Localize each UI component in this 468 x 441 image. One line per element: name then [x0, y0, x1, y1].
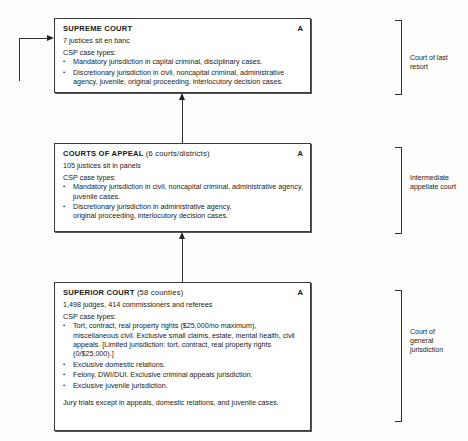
case-type-item: Tort, contract, real property rights ($2… [63, 321, 303, 359]
case-types-label: CSP case types: [63, 173, 303, 182]
connector-bypass-top [19, 38, 47, 39]
case-type-item: Discretionary jurisdiction in administra… [63, 202, 303, 221]
case-types-label: CSP case types: [63, 48, 303, 57]
case-types-list: Mandatory jurisdiction in capital crimin… [63, 57, 303, 86]
court-title-text: SUPERIOR COURT [63, 288, 135, 297]
connector-superior-to-appeal [182, 238, 183, 282]
arrow-up-icon [179, 93, 185, 100]
court-subtitle: (6 courts/districts) [146, 149, 210, 158]
court-title: COURTS OF APPEAL (6 courts/districts) [63, 149, 210, 158]
level-bracket [395, 147, 402, 234]
level-bracket [395, 20, 402, 95]
case-types-list: Mandatory jurisdiction in civil, noncapi… [63, 182, 303, 221]
court-subtitle: (58 counties) [137, 288, 184, 297]
arrow-right-icon [47, 35, 54, 41]
court-title: SUPERIOR COURT (58 counties) [63, 288, 183, 297]
connector-superior-to-supreme-bypass [19, 38, 20, 81]
case-types-list: Tort, contract, real property rights ($2… [63, 321, 303, 390]
courts-of-appeal-box: COURTS OF APPEAL (6 courts/districts) A … [54, 143, 311, 232]
court-staff: 105 justices sit in panels [63, 161, 303, 170]
superior-court-box: SUPERIOR COURT (58 counties) A 1,498 jud… [54, 282, 311, 431]
court-badge: A [298, 149, 303, 158]
case-type-item: Mandatory jurisdiction in civil, noncapi… [63, 182, 303, 201]
case-type-item: Exclusive domestic relations. [63, 360, 303, 369]
court-title-text: COURTS OF APPEAL [63, 149, 143, 158]
case-types-label: CSP case types: [63, 312, 303, 321]
court-staff: 7 justices sit en banc [63, 36, 303, 45]
court-title: SUPREME COURT [63, 24, 132, 33]
court-badge: A [298, 24, 303, 33]
level-label: Intermediate appellate court [410, 173, 460, 191]
arrow-up-icon [179, 232, 185, 239]
level-label: Court of last resort [410, 53, 460, 71]
connector-appeal-to-supreme [182, 99, 183, 143]
level-bracket [395, 290, 402, 422]
case-type-item: Felony, DWI/DUI. Exclusive criminal appe… [63, 370, 303, 379]
supreme-court-box: SUPREME COURT A 7 justices sit en banc C… [54, 18, 311, 93]
level-label: Court of general jurisdiction [410, 327, 460, 354]
court-badge: A [298, 288, 303, 297]
court-footer-note: Jury trials except in appeals, domestic … [63, 398, 303, 407]
case-type-item: Exclusive juvenile jurisdiction. [63, 381, 303, 390]
case-type-item: Discretionary jurisdiction in civil, non… [63, 68, 303, 87]
court-staff: 1,498 judges, 414 commissioners and refe… [63, 300, 303, 309]
case-type-item: Mandatory jurisdiction in capital crimin… [63, 57, 303, 66]
